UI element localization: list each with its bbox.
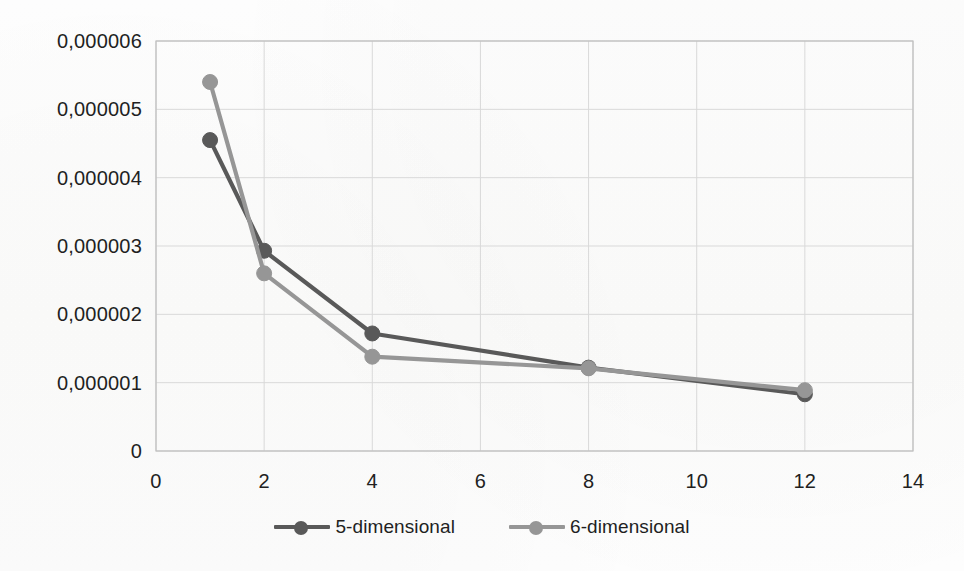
y-tick-label: 0,000001 [0,371,142,394]
legend-label: 6-dimensional [570,516,690,538]
x-tick-label: 12 [794,470,817,493]
chart-screenshot: 00,0000010,0000020,0000030,0000040,00000… [0,0,964,571]
y-tick-label: 0,000002 [0,303,142,326]
x-tick-label: 0 [150,470,161,493]
series-marker-2-1 [257,266,272,281]
y-tick-label: 0,000005 [0,98,142,121]
legend-item-2[interactable]: 6-dimensional [509,516,690,538]
x-tick-label: 8 [583,470,594,493]
series-marker-1-0 [203,133,218,148]
y-tick-label: 0 [0,440,142,463]
x-tick-label: 4 [367,470,378,493]
y-tick-label: 0,000006 [0,30,142,53]
series-marker-2-3 [581,361,596,376]
series-marker-2-4 [797,383,812,398]
x-tick-label: 6 [475,470,486,493]
legend-item-1[interactable]: 5-dimensional [274,516,455,538]
x-tick-label: 2 [258,470,269,493]
legend-label: 5-dimensional [335,516,455,538]
chart-legend: 5-dimensional6-dimensional [0,516,964,538]
series-line-1 [210,140,805,394]
series-marker-2-0 [203,75,218,90]
series-marker-2-2 [365,349,380,364]
y-tick-label: 0,000004 [0,166,142,189]
series-layer [203,75,813,402]
x-tick-label: 10 [685,470,708,493]
series-marker-1-2 [365,326,380,341]
legend-marker-icon [509,519,565,535]
y-tick-label: 0,000003 [0,235,142,258]
legend-marker-icon [274,519,330,535]
series-line-2 [210,82,805,390]
x-tick-label: 14 [902,470,925,493]
line-chart: 00,0000010,0000020,0000030,0000040,00000… [0,0,964,571]
